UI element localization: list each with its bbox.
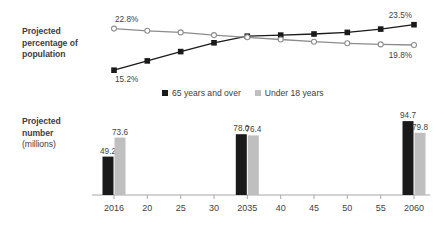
bar-value-label: 49.2 [100,147,116,156]
bar-chart-panel: 2016202530203540455055206049.278.094.773… [0,0,444,232]
bar-value-label: 73.6 [112,128,128,137]
bar [103,157,114,195]
x-axis-tick-label: 2035 [237,203,257,213]
bar [403,121,414,195]
x-axis-tick-label: 2060 [404,203,424,213]
bar [415,133,426,195]
x-axis-tick-label: 20 [142,203,152,213]
x-axis-tick-label: 45 [309,203,319,213]
bar-value-label: 76.4 [245,125,261,134]
bar [236,134,247,195]
x-axis-tick-label: 25 [176,203,186,213]
bar-value-label: 79.8 [412,123,428,132]
x-axis-tick-label: 50 [342,203,352,213]
x-axis-tick-label: 40 [276,203,286,213]
bar [248,135,259,195]
chart-figure: Projected percentage of population Proje… [0,0,444,232]
bar [115,138,126,195]
bar-value-label: 94.7 [400,111,416,120]
x-axis-tick-label: 30 [209,203,219,213]
x-axis-tick-label: 2016 [104,203,124,213]
x-axis-tick-label: 55 [376,203,386,213]
